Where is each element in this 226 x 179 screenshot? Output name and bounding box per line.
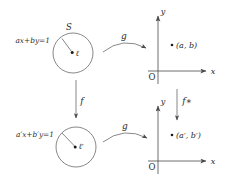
point-label-ab-prime: (a′, b′): [176, 131, 201, 140]
origin-label-bottom: O: [149, 162, 156, 172]
top-left-circle-group: S ax+by=1 ℓ: [15, 22, 93, 74]
arrow-g-top-group: g: [103, 31, 146, 52]
origin-label-top: O: [149, 72, 156, 82]
top-right-axes-group: y x O (a, b): [148, 7, 216, 84]
y-axis-label-top: y: [160, 7, 166, 16]
y-axis-label-bottom: y: [160, 97, 166, 106]
x-axis-label-top: x: [211, 67, 216, 76]
arrow-f-group: f: [76, 80, 85, 118]
point-marker-ell-prime: [74, 146, 77, 149]
arrow-label-f-star: f∗: [181, 96, 191, 106]
arrow-label-g-top: g: [121, 31, 127, 41]
point-marker-ab: [171, 44, 174, 47]
x-axis-label-bottom: x: [211, 157, 216, 166]
arrow-g-bottom: [103, 133, 147, 142]
point-label-ell: ℓ: [76, 49, 80, 58]
radius-line-top: [62, 39, 72, 52]
point-label-ell-prime: ℓ′: [79, 142, 84, 151]
point-marker-ell: [71, 51, 74, 54]
point-label-ab: (a, b): [176, 41, 197, 50]
commutative-diagram: S ax+by=1 ℓ a′x+b′y=1 ℓ′ y x O (a, b) y: [0, 0, 226, 179]
set-label-s: S: [66, 22, 72, 32]
arrow-label-f: f: [79, 96, 85, 106]
arrow-f-star-group: f∗: [177, 89, 192, 120]
equation-label-top: ax+by=1: [15, 36, 50, 45]
arrow-g-bottom-group: g: [103, 121, 147, 142]
bottom-left-circle-group: a′x+b′y=1 ℓ′: [16, 127, 96, 167]
equation-label-bottom: a′x+b′y=1: [16, 130, 54, 139]
arrow-g-top: [103, 43, 146, 52]
arrow-label-g-bottom: g: [122, 121, 128, 131]
bottom-right-axes-group: y x O (a′, b′): [148, 97, 216, 174]
point-marker-ab-prime: [171, 134, 174, 137]
radius-line-bottom: [62, 133, 75, 146]
diagram-canvas: S ax+by=1 ℓ a′x+b′y=1 ℓ′ y x O (a, b) y: [0, 0, 226, 179]
